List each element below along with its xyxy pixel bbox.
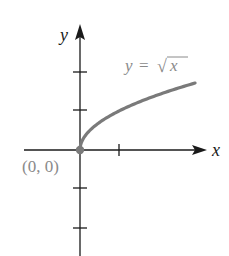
function-label: y = √ x [123, 56, 188, 76]
origin-label: (0, 0) [22, 157, 59, 176]
svg-text:x: x [169, 56, 178, 75]
y-axis-label: y [58, 25, 68, 45]
radical-icon: √ [157, 56, 167, 76]
y-axis [73, 24, 87, 256]
svg-text:=: = [139, 56, 149, 75]
x-axis [24, 144, 207, 156]
x-axis-label: x [211, 140, 220, 160]
svg-text:y: y [123, 56, 133, 75]
sqrt-graph: y x y = √ x (0, 0) [0, 0, 229, 256]
sqrt-curve [80, 83, 195, 150]
origin-point [76, 146, 84, 154]
